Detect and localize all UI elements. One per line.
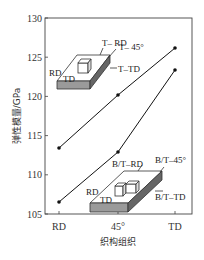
label-td: TD: [100, 195, 112, 205]
cube-icon: [126, 184, 136, 193]
y-tick-115: 115: [27, 130, 42, 141]
label-bt-45: B/T–45°: [155, 155, 187, 165]
label-t-45: T– 45°: [119, 42, 144, 52]
y-tick-105: 105: [27, 209, 42, 220]
cube-icon: [78, 63, 88, 73]
x-tick-45: 45°: [111, 221, 125, 232]
y-tick-130: 130: [27, 13, 42, 24]
cube-icon: [115, 186, 123, 196]
y-axis-label: 弹性模量/GPa: [11, 88, 22, 145]
label-bt-td: B/T–TD: [155, 192, 186, 202]
label-rd: RD: [49, 68, 62, 78]
label-rd: RD: [86, 187, 99, 197]
label-bt-rd: B/T–RD: [112, 159, 144, 169]
x-axis-label: 织构组织: [100, 236, 136, 247]
x-tick-rd: RD: [52, 221, 66, 232]
x-tick-td: TD: [168, 221, 181, 232]
upper-texture-inset: T– RD T– 45° T–TD RD TD: [49, 38, 144, 89]
lower-texture-inset: B/T–RD B/T–45° B/T–TD RD TD: [86, 155, 187, 212]
y-tick-120: 120: [27, 91, 42, 102]
label-td: TD: [63, 74, 75, 84]
elastic-modulus-chart: 130 125 120 115 110 105 RD 45° TD 织构组织 弹…: [0, 0, 204, 260]
y-tick-125: 125: [27, 52, 42, 63]
y-tick-110: 110: [27, 169, 42, 180]
label-t-td: T–TD: [118, 64, 140, 74]
